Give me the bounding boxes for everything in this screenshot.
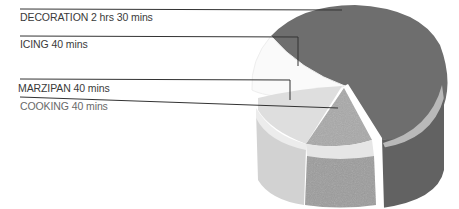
cooking-slice-side — [305, 156, 376, 208]
label-decoration: DECORATION 2 hrs 30 mins — [20, 11, 153, 23]
label-icing: ICING 40 mins — [20, 38, 88, 50]
label-cooking: COOKING 40 mins — [20, 100, 108, 112]
label-marzipan: MARZIPAN 40 mins — [18, 82, 110, 94]
leader-decoration — [20, 9, 342, 10]
